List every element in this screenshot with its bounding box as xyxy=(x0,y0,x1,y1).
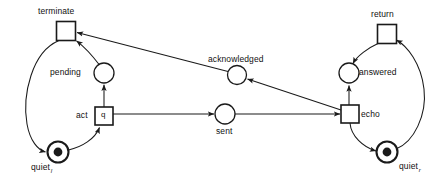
label-quiet-r: quietr xyxy=(399,162,421,173)
label-echo: echo xyxy=(361,110,380,119)
label-quiet-l-text: quiet xyxy=(31,162,50,172)
place-acknowledged xyxy=(228,66,247,85)
label-quiet-r-text: quiet xyxy=(399,161,418,171)
label-return: return xyxy=(371,10,394,19)
arc-quiet-l-to-act xyxy=(69,128,100,151)
place-sent xyxy=(215,104,235,124)
label-acknowledged: acknowledged xyxy=(208,55,264,64)
label-answered: answered xyxy=(359,68,397,77)
arc-return-to-answered xyxy=(353,44,378,64)
transition-terminate xyxy=(57,22,76,41)
label-sent: sent xyxy=(216,127,232,136)
transition-echo xyxy=(341,105,359,123)
petri-net-diagram: terminate pending act q quietl acknowled… xyxy=(0,0,444,178)
label-terminate: terminate xyxy=(38,7,74,16)
arc-quiet-r-to-return xyxy=(396,40,424,149)
place-pending xyxy=(94,63,114,83)
arc-terminate-to-quiet-l xyxy=(26,41,59,152)
label-quiet-l: quietl xyxy=(31,163,52,174)
label-act: act xyxy=(76,111,88,120)
token-quiet-l xyxy=(54,148,63,157)
label-quiet-r-subscript: r xyxy=(418,167,421,173)
transition-act-token-label: q xyxy=(101,111,105,119)
arc-echo-to-quiet-r xyxy=(350,123,376,151)
arc-echo-to-acknowledged xyxy=(248,79,342,110)
label-quiet-l-subscript: l xyxy=(50,168,52,174)
petri-net-canvas xyxy=(0,0,444,178)
place-answered xyxy=(339,63,359,83)
label-pending: pending xyxy=(50,68,81,77)
transition-return xyxy=(378,25,397,44)
token-quiet-r xyxy=(383,148,392,157)
arc-pending-to-terminate xyxy=(77,41,100,65)
